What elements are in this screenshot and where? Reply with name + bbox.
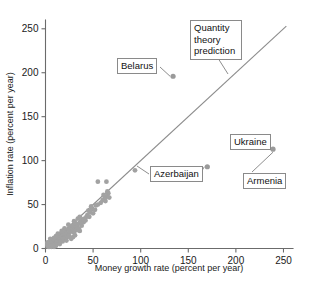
y-tick-label: 100: [22, 155, 39, 166]
y-axis-ticks: 050100150200250: [22, 23, 46, 254]
data-point: [95, 179, 100, 184]
data-point: [107, 195, 112, 200]
leader-armenia: [252, 152, 273, 172]
data-point: [93, 207, 98, 212]
data-point: [133, 168, 138, 173]
data-point: [103, 199, 108, 204]
data-point: [89, 204, 94, 209]
annotation-armenia[interactable]: Armenia: [243, 173, 286, 189]
y-tick-label: 250: [22, 23, 39, 34]
data-point-armenia: [270, 147, 275, 152]
x-tick-label: 0: [43, 255, 49, 266]
chart-figure: 050100150200250 050100150200250 Money gr…: [0, 0, 317, 298]
annotation-armenia-label: Armenia: [247, 175, 282, 186]
data-point: [105, 189, 110, 194]
y-tick-label: 0: [33, 243, 39, 254]
data-points: [45, 168, 137, 249]
data-point: [66, 222, 71, 227]
x-tick-label: 250: [275, 255, 292, 266]
data-point: [59, 229, 64, 234]
data-point: [77, 214, 82, 219]
annotation-quantity-theory-prediction[interactable]: Quantity theory prediction: [190, 20, 242, 60]
data-point: [48, 236, 53, 241]
annotation-belarus[interactable]: Belarus: [117, 58, 157, 74]
data-point-azerbaijan: [205, 164, 210, 169]
data-point: [73, 233, 78, 238]
data-point: [104, 179, 109, 184]
y-tick-label: 50: [27, 199, 39, 210]
data-point: [46, 244, 51, 249]
data-point: [101, 192, 106, 197]
leader-azerbaijan-left: [137, 166, 149, 174]
data-point: [98, 200, 103, 205]
annotation-azerbaijan-label: Azerbaijan: [154, 168, 199, 179]
x-axis-title: Money growth rate (percent per year): [95, 263, 244, 273]
y-tick-label: 150: [22, 111, 39, 122]
annotation-quantity-line-1: Quantity: [194, 22, 238, 34]
data-point-belarus: [170, 74, 175, 79]
data-point: [72, 219, 77, 224]
y-axis-title: Inflation rate (percent per year): [5, 72, 15, 196]
y-tick-label: 200: [22, 67, 39, 78]
annotation-quantity-line-3: prediction: [194, 45, 238, 57]
data-point: [86, 208, 91, 213]
data-point: [94, 203, 99, 208]
leader-belarus: [160, 67, 170, 76]
data-point: [87, 214, 92, 219]
annotation-ukraine[interactable]: Ukraine: [230, 134, 271, 150]
annotation-belarus-label: Belarus: [121, 60, 153, 71]
annotation-leader-lines: [137, 55, 273, 174]
annotation-ukraine-label: Ukraine: [234, 136, 267, 147]
annotation-quantity-line-2: theory: [194, 34, 238, 46]
data-point: [83, 218, 88, 223]
highlighted-data-points: [170, 74, 275, 170]
annotation-azerbaijan[interactable]: Azerbaijan: [150, 166, 203, 182]
